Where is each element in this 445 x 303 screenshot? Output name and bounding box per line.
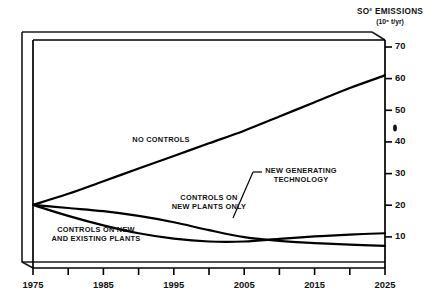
chart-units: (10⁶ t/yr) [376,18,404,26]
x-tick-label-2015: 2015 [304,279,325,290]
y-tick-label-10: 10 [395,230,405,241]
scan-artifact-speck [393,124,397,131]
y-tick-label-30: 30 [395,167,405,178]
chart-title: SO² EMISSIONS [357,7,423,16]
annotation-new-generating-technology-line1: NEW GENERATING [265,166,337,175]
x-tick-label-2005: 2005 [234,279,255,290]
x-tick-label-1995: 1995 [163,279,184,290]
chart-canvas: 70 60 50 40 30 20 10 1975 1985 1995 [0,0,445,303]
annotation-controls-new-existing-line1: CONTROLS ON NEW [57,225,135,234]
annotation-controls-new-plants-only-line2: NEW PLANTS ONLY [172,202,247,211]
y-tick-label-70: 70 [395,40,405,51]
annotation-new-generating-technology-line2: TECHNOLOGY [274,175,329,184]
x-tick-label-1975: 1975 [23,279,44,290]
so2-emissions-chart: 70 60 50 40 30 20 10 1975 1985 1995 [0,0,445,303]
y-tick-label-60: 60 [395,72,405,83]
chart-background [0,0,445,303]
annotation-controls-new-existing-line2: AND EXISTING PLANTS [52,234,141,243]
y-tick-label-20: 20 [395,199,405,210]
y-tick-label-50: 50 [395,104,405,115]
annotation-no-controls: NO CONTROLS [132,135,189,144]
x-tick-label-1985: 1985 [93,279,114,290]
annotation-controls-new-plants-only-line1: CONTROLS ON [180,193,237,202]
y-tick-label-40: 40 [395,135,405,146]
x-tick-label-2025: 2025 [375,279,396,290]
